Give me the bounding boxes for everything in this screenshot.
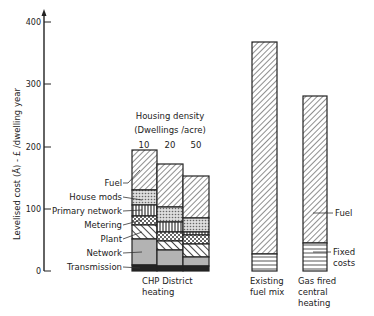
y-tick-300: 300 [26, 80, 41, 89]
y-tick-200: 200 [26, 143, 41, 152]
group-label-gas-2: central [298, 287, 328, 297]
y-tick-400: 400 [26, 18, 41, 27]
y-axis: 0 100 200 300 400 Levelised cost (Ā) - £… [12, 9, 51, 276]
label-metering: Metering [84, 220, 122, 230]
bar-chp-50 [183, 176, 209, 271]
group-label-existing-1: Existing [250, 276, 284, 286]
group-label-gas-3: heating [298, 298, 330, 308]
label-plant: Plant [101, 234, 123, 244]
group-label-chp-2: heating [142, 287, 174, 297]
bar-gas-fired-central-heating [303, 96, 327, 271]
density-50: 50 [191, 140, 202, 150]
density-10: 10 [139, 140, 150, 150]
y-axis-label: Levelised cost (Ā) - £ /dwelling year [12, 88, 22, 240]
label-fixed: Fixed [333, 247, 355, 257]
group-label-gas-1: Gas fired [298, 276, 336, 286]
y-tick-100: 100 [26, 205, 41, 214]
density-20: 20 [165, 140, 176, 150]
label-costs: costs [333, 258, 356, 268]
label-primary-network: Primary network [52, 206, 122, 216]
label-network: Network [87, 248, 123, 258]
group-label-existing-2: fuel mix [250, 287, 284, 297]
bar-chp-20 [157, 164, 183, 271]
label-fuel: Fuel [105, 178, 122, 188]
bar-existing-fuel-mix [252, 42, 277, 271]
group-label-chp-1: CHP District [142, 276, 193, 286]
label-transmission: Transmission [66, 262, 122, 272]
dwellings-acre-label: (Dwellings /acre) [134, 125, 206, 135]
label-house-mods: House mods [69, 192, 122, 202]
housing-density-label: Housing density [136, 111, 204, 121]
label-fuel-right: Fuel [335, 208, 352, 218]
chp-legend-labels: Fuel House mods Primary network Metering… [52, 170, 142, 272]
chart: 0 100 200 300 400 Levelised cost (Ā) - £… [0, 0, 374, 316]
y-tick-0: 0 [36, 267, 41, 276]
